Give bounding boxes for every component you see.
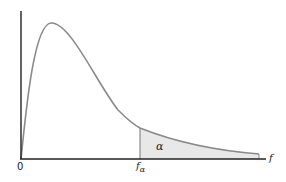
critical-value-subscript: α <box>140 165 145 174</box>
origin-label: 0 <box>17 161 23 172</box>
x-axis-label: f <box>269 152 273 163</box>
critical-value-label: fα <box>136 160 145 174</box>
alpha-label: α <box>156 140 163 153</box>
f-distribution-chart <box>0 0 286 182</box>
